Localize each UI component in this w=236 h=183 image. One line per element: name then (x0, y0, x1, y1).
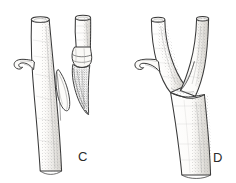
figure-container: C D (0, 0, 236, 183)
panel-c-scion-wedge (72, 64, 89, 114)
panel-d-lateral-branch-stub (135, 59, 160, 71)
panel-c-bark-flap (72, 47, 92, 67)
panel-d-drawing (135, 16, 216, 182)
grafting-illustration-svg (0, 0, 236, 183)
panel-label-c: C (78, 150, 88, 163)
panel-label-d: D (213, 151, 223, 164)
panel-c-lateral-branch-stub (14, 59, 34, 69)
panel-d-scion-limb (180, 16, 214, 100)
panel-d-lower-trunk (171, 92, 216, 182)
